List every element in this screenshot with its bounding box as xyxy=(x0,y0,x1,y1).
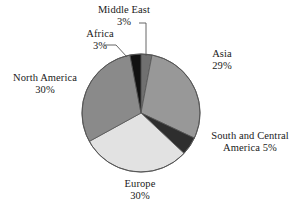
slice-label-asia-name: Asia xyxy=(198,48,246,60)
slice-label-south-and-central-america-line2: America 5% xyxy=(205,142,295,154)
slice-label-africa: Africa 3% xyxy=(74,28,126,51)
slice-label-middle-east: Middle East 3% xyxy=(86,4,162,27)
leader-line-middle-east xyxy=(139,23,146,56)
slice-label-south-and-central-america-line1: South and Central xyxy=(205,130,295,142)
slice-label-north-america-percent: 30% xyxy=(6,84,84,96)
slice-label-middle-east-name: Middle East xyxy=(86,4,162,16)
slice-label-europe-percent: 30% xyxy=(110,190,170,202)
slice-label-north-america: North America 30% xyxy=(6,72,84,95)
slice-label-middle-east-percent: 3% xyxy=(86,16,162,28)
slice-label-europe-name: Europe xyxy=(110,178,170,190)
slice-label-asia-percent: 29% xyxy=(198,60,246,72)
slice-label-africa-name: Africa xyxy=(74,28,126,40)
pie-chart-figure: Middle East 3% Africa 3% Asia 29% South … xyxy=(0,0,295,213)
slice-label-africa-percent: 3% xyxy=(74,40,126,52)
slice-label-asia: Asia 29% xyxy=(198,48,246,71)
slice-label-north-america-name: North America xyxy=(6,72,84,84)
slice-label-europe: Europe 30% xyxy=(110,178,170,201)
slice-label-south-and-central-america: South and Central America 5% xyxy=(205,130,295,153)
pie-slice-group xyxy=(82,54,200,172)
